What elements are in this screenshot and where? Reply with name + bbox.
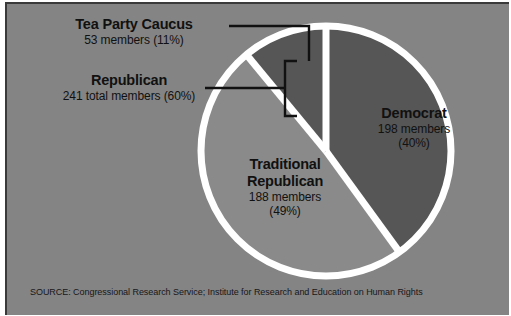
callout-traditional-republican-detail-line2: (49%) [211, 204, 359, 218]
callout-democrat-detail-line2: (40%) [343, 136, 485, 150]
callout-democrat-detail-line1: 198 members [343, 122, 485, 136]
callout-tea-party-detail: 53 members (11%) [25, 33, 243, 47]
callout-tea-party-title: Tea Party Caucus [25, 16, 243, 33]
callout-republican-detail: 241 total members (60%) [15, 89, 243, 103]
callout-democrat: Democrat 198 members (40%) [343, 105, 485, 150]
callout-republican-title: Republican [15, 72, 243, 89]
pie-chart-figure: Tea Party Caucus 53 members (11%) Republ… [0, 0, 511, 316]
callout-traditional-republican-detail-line1: 188 members [211, 190, 359, 204]
callout-republican: Republican 241 total members (60%) [15, 72, 243, 103]
callout-traditional-republican-title-line1: Traditional [211, 156, 359, 173]
callout-tea-party-caucus: Tea Party Caucus 53 members (11%) [25, 16, 243, 47]
chart-panel: Tea Party Caucus 53 members (11%) Republ… [5, 2, 509, 315]
callout-traditional-republican-title-line2: Republican [211, 173, 359, 190]
callout-traditional-republican: Traditional Republican 188 members (49%) [211, 156, 359, 219]
callout-democrat-title: Democrat [343, 105, 485, 122]
source-note: SOURCE: Congressional Research Service; … [30, 287, 423, 297]
